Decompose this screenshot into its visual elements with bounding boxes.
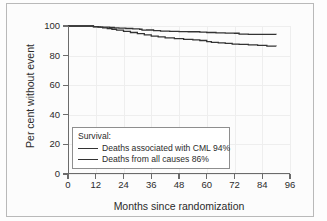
- plot-frame: [68, 26, 290, 174]
- x-tick-label: 84: [250, 180, 274, 190]
- x-tick-label: 48: [167, 180, 191, 190]
- survival-chart-figure: 020406080100 01224364860728496 Per cent …: [0, 0, 327, 221]
- x-tick-label: 12: [84, 180, 108, 190]
- x-tick-label: 36: [139, 180, 163, 190]
- x-tick-label: 72: [223, 180, 247, 190]
- x-tick-label: 96: [278, 180, 302, 190]
- y-axis-title: Per cent without event: [24, 6, 36, 186]
- x-tick-label: 24: [112, 180, 136, 190]
- x-tick-label: 60: [195, 180, 219, 190]
- gridline-vertical: [290, 26, 291, 174]
- x-tick-label: 0: [56, 180, 80, 190]
- x-axis-title: Months since randomization: [68, 200, 290, 212]
